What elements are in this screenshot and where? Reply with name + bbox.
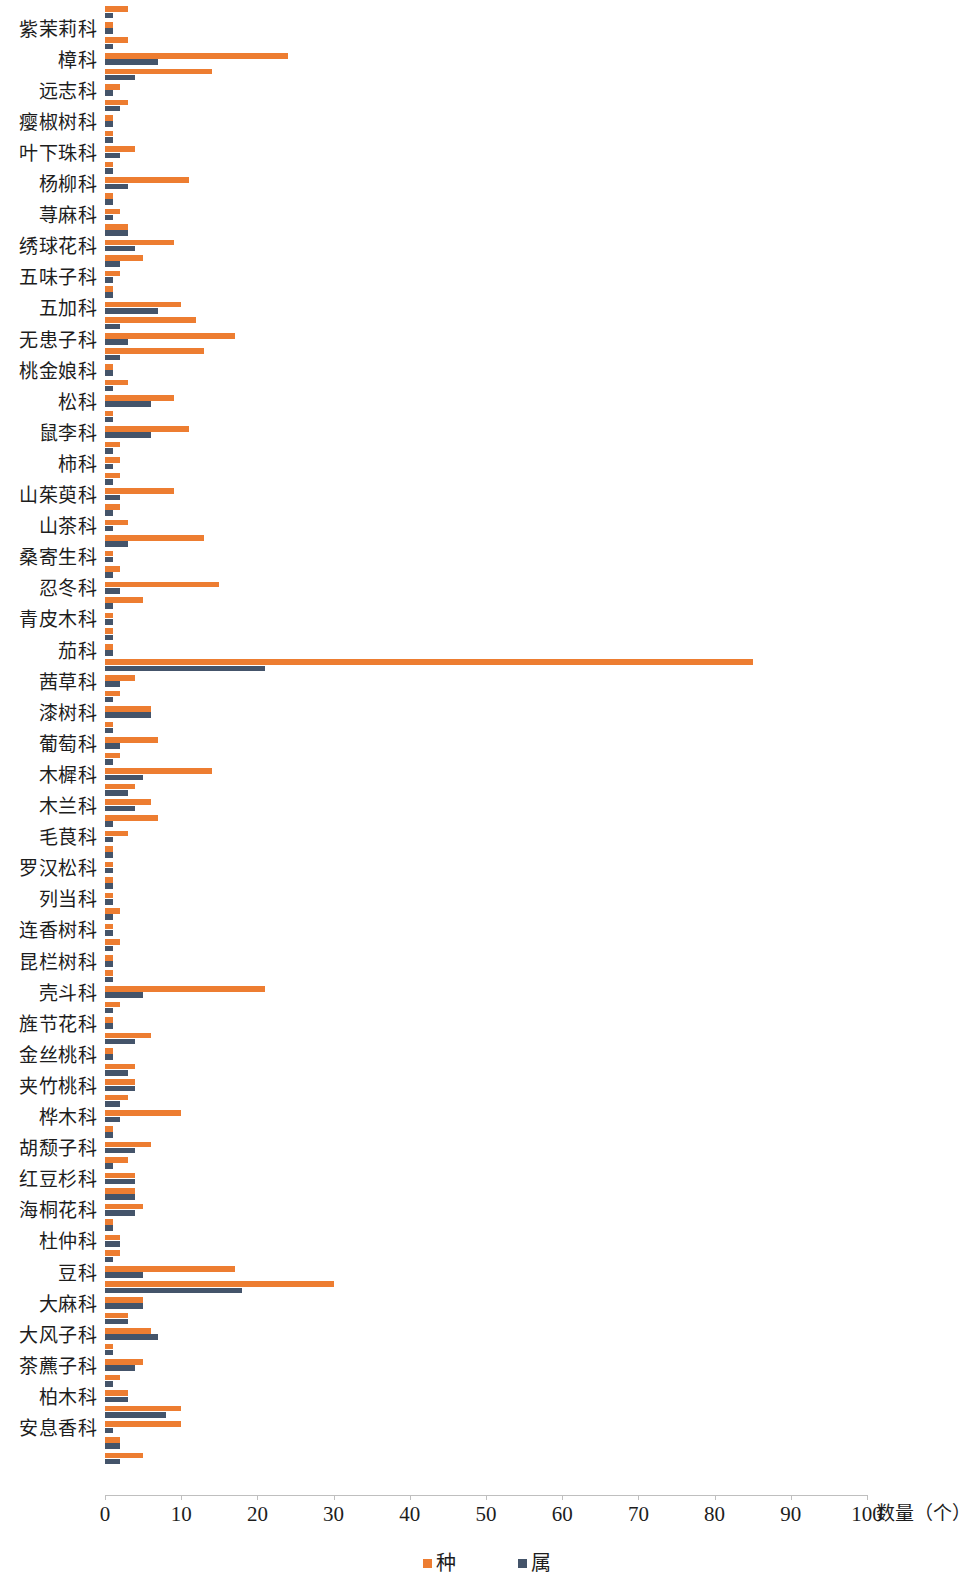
- chart-row: [0, 969, 974, 985]
- chart-row: [0, 472, 974, 488]
- chart-row: 松科: [0, 394, 974, 410]
- bar-species: [105, 1048, 113, 1054]
- bar-genus: [105, 44, 113, 50]
- bar-species: [105, 146, 135, 152]
- chart-row: 金丝桃科: [0, 1047, 974, 1063]
- bar-genus: [105, 1179, 135, 1185]
- bar-genus: [105, 59, 158, 65]
- bar-species: [105, 457, 120, 463]
- chart-row: 列当科: [0, 891, 974, 907]
- bar-genus: [105, 1334, 158, 1340]
- chart-row: [0, 129, 974, 145]
- bar-genus: [105, 961, 113, 967]
- chart-row: 山茶科: [0, 518, 974, 534]
- bar-species: [105, 37, 128, 43]
- chart-row: [0, 751, 974, 767]
- bar-species: [105, 162, 113, 168]
- chart-row: [0, 503, 974, 519]
- chart-row: [0, 938, 974, 954]
- chart-row: 桃金娘科: [0, 363, 974, 379]
- chart-row: 毛茛科: [0, 829, 974, 845]
- bar-genus: [105, 603, 113, 609]
- bar-genus: [105, 292, 113, 298]
- bar-species: [105, 1157, 128, 1163]
- bar-genus: [105, 977, 113, 983]
- chart-row: 连香树科: [0, 922, 974, 938]
- bar-species: [105, 535, 204, 541]
- bar-species: [105, 1033, 151, 1039]
- bar-genus: [105, 386, 113, 392]
- bar-genus: [105, 479, 113, 485]
- bar-species: [105, 970, 113, 976]
- chart-row: 绣球花科: [0, 238, 974, 254]
- bar-genus: [105, 526, 113, 532]
- x-axis-tick-mark: [562, 1495, 563, 1500]
- x-axis-tick-mark: [181, 1495, 182, 1500]
- bar-genus: [105, 1163, 113, 1169]
- bar-species: [105, 442, 120, 448]
- bar-species: [105, 1002, 120, 1008]
- x-axis-tick-label: 70: [608, 1502, 668, 1526]
- x-axis-tick-label: 30: [304, 1502, 364, 1526]
- chart-row: 豆科: [0, 1265, 974, 1281]
- bar-genus: [105, 946, 113, 952]
- bar-genus: [105, 215, 113, 221]
- bar-genus: [105, 1210, 135, 1216]
- bar-species: [105, 473, 120, 479]
- legend-label: 属: [531, 1552, 551, 1574]
- bar-genus: [105, 13, 113, 19]
- chart-row: [0, 1280, 974, 1296]
- chart-row: [0, 254, 974, 270]
- bar-genus: [105, 837, 113, 843]
- bar-species: [105, 691, 120, 697]
- bar-species: [105, 426, 189, 432]
- chart-row: 荨麻科: [0, 207, 974, 223]
- x-axis-tick-label: 90: [761, 1502, 821, 1526]
- bar-species: [105, 768, 212, 774]
- chart-row: [0, 720, 974, 736]
- bar-genus: [105, 1039, 135, 1045]
- legend-item[interactable]: 种: [423, 1552, 456, 1574]
- bar-species: [105, 348, 204, 354]
- bar-species: [105, 380, 128, 386]
- bar-genus: [105, 790, 128, 796]
- bar-genus: [105, 1412, 166, 1418]
- bar-species: [105, 1188, 135, 1194]
- chart-row: 桑寄生科: [0, 549, 974, 565]
- bar-species: [105, 100, 128, 106]
- bar-genus: [105, 1070, 128, 1076]
- bar-species: [105, 411, 113, 417]
- bar-species: [105, 1313, 128, 1319]
- bar-species: [105, 784, 135, 790]
- chart-row: 杨柳科: [0, 176, 974, 192]
- bar-genus: [105, 417, 113, 423]
- chart-row: [0, 192, 974, 208]
- legend-item[interactable]: 属: [518, 1552, 551, 1574]
- bar-species: [105, 955, 113, 961]
- bar-genus: [105, 1272, 143, 1278]
- bar-genus: [105, 914, 113, 920]
- bar-species: [105, 815, 158, 821]
- chart-row: 瘿椒树科: [0, 114, 974, 130]
- bar-genus: [105, 153, 120, 159]
- bar-species: [105, 1344, 113, 1350]
- chart-row: [0, 534, 974, 550]
- chart-row: 大麻科: [0, 1296, 974, 1312]
- bar-species: [105, 1250, 120, 1256]
- bar-species: [105, 302, 181, 308]
- bar-species: [105, 862, 113, 868]
- x-axis-tick-label: 40: [380, 1502, 440, 1526]
- bar-genus: [105, 1303, 143, 1309]
- bar-genus: [105, 821, 113, 827]
- bar-species: [105, 193, 113, 199]
- bar-genus: [105, 697, 113, 703]
- chart-row: 安息香科: [0, 1420, 974, 1436]
- bar-species: [105, 364, 113, 370]
- chart-row: [0, 347, 974, 363]
- bar-genus: [105, 339, 128, 345]
- chart-row: 叶下珠科: [0, 145, 974, 161]
- bar-species: [105, 613, 113, 619]
- bar-genus: [105, 1397, 128, 1403]
- bar-species: [105, 893, 113, 899]
- bar-genus: [105, 759, 113, 765]
